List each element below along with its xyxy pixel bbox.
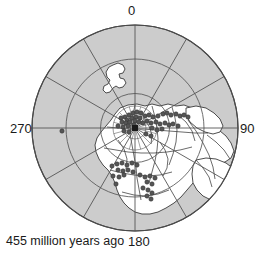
fossil-locality-point	[150, 126, 154, 130]
fossil-locality-point	[119, 116, 123, 120]
fossil-locality-point	[127, 130, 131, 134]
fossil-locality-point	[145, 119, 149, 123]
fossil-locality-point	[138, 173, 142, 177]
fossil-locality-point	[122, 129, 126, 133]
fossil-locality-point	[143, 175, 147, 179]
fossil-locality-point	[143, 114, 147, 118]
paleogeographic-map-figure: 0 90 180 270 455 million years ago	[0, 0, 263, 260]
fossil-locality-point	[116, 124, 120, 128]
fossil-locality-point	[133, 119, 137, 123]
fossil-locality-point	[186, 115, 190, 119]
fossil-locality-point	[145, 180, 149, 184]
fossil-locality-point	[139, 111, 143, 115]
fossil-locality-point	[154, 120, 158, 124]
fossil-locality-point	[134, 115, 138, 119]
fossil-locality-point	[135, 110, 139, 114]
fossil-locality-point	[121, 125, 125, 129]
fossil-locality-point	[130, 161, 134, 165]
fossil-locality-point	[156, 114, 160, 118]
fossil-locality-point	[114, 182, 118, 186]
fossil-locality-point	[126, 124, 130, 128]
fossil-locality-point	[138, 116, 142, 120]
fossil-locality-point	[125, 163, 129, 167]
fossil-locality-point	[131, 170, 135, 174]
fossil-locality-point	[151, 115, 155, 119]
fossil-locality-point	[149, 134, 153, 138]
fossil-locality-point	[144, 132, 148, 136]
fossil-locality-point	[116, 168, 120, 172]
fossil-locality-point	[147, 113, 151, 117]
fossil-locality-point	[60, 129, 64, 133]
fossil-locality-point	[158, 122, 162, 126]
fossil-locality-point	[120, 120, 124, 124]
fossil-locality-point	[120, 161, 124, 165]
fossil-locality-point	[149, 197, 153, 201]
fossil-locality-point	[137, 120, 141, 124]
fossil-locality-point	[153, 176, 157, 180]
axis-label-0: 0	[128, 3, 135, 18]
fossil-locality-point	[171, 122, 175, 126]
axis-label-90: 90	[240, 121, 254, 136]
fossil-locality-point	[110, 164, 114, 168]
fossil-locality-point	[149, 121, 153, 125]
axis-label-270: 270	[10, 121, 32, 136]
fossil-locality-point	[141, 186, 145, 190]
fossil-locality-point	[178, 114, 182, 118]
fossil-locality-point	[128, 120, 132, 124]
fossil-locality-point	[167, 123, 171, 127]
fossil-locality-point	[176, 124, 180, 128]
polar-map-svg	[0, 0, 263, 260]
fossil-locality-point	[148, 174, 152, 178]
fossil-locality-point	[126, 168, 130, 172]
fossil-locality-point	[121, 169, 125, 173]
fossil-locality-point	[111, 174, 115, 178]
fossil-locality-point	[115, 162, 119, 166]
fossil-locality-point	[145, 194, 149, 198]
fossil-locality-point	[141, 121, 145, 125]
fossil-locality-point	[160, 127, 164, 131]
fossil-locality-point	[182, 113, 186, 117]
pole-marker	[132, 125, 138, 131]
fossil-locality-point	[161, 112, 165, 116]
fossil-locality-point	[146, 188, 150, 192]
fossil-locality-point	[155, 128, 159, 132]
axis-label-180: 180	[128, 234, 150, 249]
fossil-locality-point	[150, 191, 154, 195]
fossil-locality-point	[165, 111, 169, 115]
fossil-locality-point	[150, 182, 154, 186]
fossil-locality-point	[163, 121, 167, 125]
fossil-locality-point	[169, 113, 173, 117]
fossil-locality-point	[117, 175, 121, 179]
fossil-locality-point	[122, 173, 126, 177]
fossil-locality-point	[174, 112, 178, 116]
figure-caption: 455 million years ago	[6, 234, 124, 248]
fossil-locality-point	[135, 163, 139, 167]
fossil-locality-point	[131, 111, 135, 115]
